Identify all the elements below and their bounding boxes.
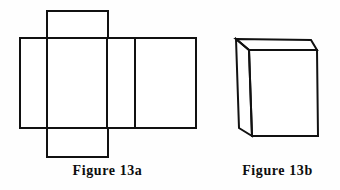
figure-13b-prism bbox=[236, 39, 318, 136]
figure-13b-caption: Figure 13b bbox=[215, 163, 340, 179]
net-top-flap-fill bbox=[47, 11, 108, 38]
prism-front-face-fill bbox=[249, 50, 318, 136]
figure-13a-caption: Figure 13a bbox=[0, 163, 215, 179]
figure-sheet: Figure 13a Figure 13b bbox=[0, 0, 340, 190]
net-bottom-flap-fill bbox=[47, 128, 108, 157]
figure-13a-net bbox=[20, 11, 196, 157]
figures-illustration bbox=[0, 0, 340, 190]
